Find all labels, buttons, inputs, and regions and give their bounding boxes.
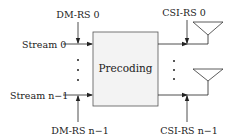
antenna-n-1-icon <box>193 69 223 81</box>
output-n-1: CSI-RS n−1 <box>158 69 223 136</box>
csirs-n-1-label: CSI-RS n−1 <box>160 125 218 136</box>
stream-n-1-label: Stream n−1 <box>10 90 68 101</box>
precoding-label: Precoding <box>98 62 152 74</box>
output-ellipsis <box>173 60 175 80</box>
antenna-0-icon <box>193 22 223 35</box>
precoding-block: Precoding <box>93 32 158 106</box>
output-0: CSI-RS 0 <box>158 7 223 44</box>
stream-0-input: Stream 0 DM-RS 0 <box>22 9 100 50</box>
csirs-0-label: CSI-RS 0 <box>162 7 205 18</box>
dmrs-n-1-label: DM-RS n−1 <box>51 125 108 136</box>
input-ellipsis <box>77 59 79 81</box>
precoding-diagram: Precoding Stream 0 DM-RS 0 Stream n−1 DM… <box>0 0 234 139</box>
stream-0-label: Stream 0 <box>22 39 66 50</box>
dmrs-0-label: DM-RS 0 <box>56 9 99 20</box>
